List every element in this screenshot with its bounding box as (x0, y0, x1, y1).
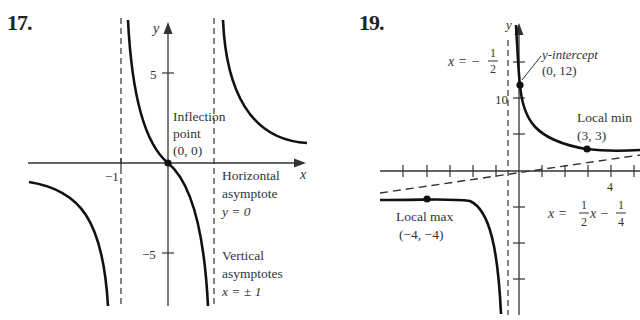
problem-19-panel: 19. (320, 0, 640, 320)
y-axis-label: y (151, 21, 160, 36)
local-max-label: Local max (−4, −4) (396, 209, 457, 242)
svg-text:1: 1 (581, 198, 587, 212)
svg-text:1: 1 (490, 46, 496, 60)
svg-text:1: 1 (618, 198, 624, 212)
svg-text:x −: x − (589, 206, 609, 221)
local-max-marker (423, 195, 430, 202)
y-tick-neg5: −5 (142, 247, 156, 262)
y-intercept-label: y-intercept (0, 12) (540, 47, 601, 78)
graph-17: y x 5 −5 −1 Inflection point (0, 0) Hori… (0, 0, 320, 320)
x-tick-4: 4 (607, 180, 613, 194)
y-axis-label: y (504, 17, 512, 32)
vertical-asymptote-label: x = − 1 2 (447, 46, 498, 76)
y-tick-5: 5 (150, 67, 157, 82)
problem-17-panel: 17. y x 5 −5 −1 Inflection point (0, 0) … (0, 0, 320, 320)
y-tick-10: 10 (495, 92, 508, 107)
x-axis-label: x (299, 167, 307, 182)
slant-asymptote (380, 155, 640, 193)
svg-text:4: 4 (618, 215, 624, 229)
horizontal-asymptote-label: Horizontal asymptote y = 0 (220, 168, 283, 219)
svg-text:2: 2 (490, 62, 496, 76)
svg-text:x =: x = (547, 206, 567, 221)
local-min-label: Local min (3, 3) (577, 110, 635, 143)
inflection-point-marker (164, 159, 171, 166)
x-tick-neg1: −1 (105, 169, 119, 184)
graph-19: y 10 4 x = − 1 2 y-intercept (0, 12) Loc… (320, 0, 640, 320)
y-axis-arrow-icon (164, 22, 173, 34)
vertical-asymptotes-label: Vertical asymptotes x = ± 1 (221, 248, 286, 299)
curve-left-branch (29, 182, 108, 306)
y-intercept-leader (522, 56, 541, 80)
y-intercept-marker (516, 81, 523, 88)
inflection-point-label: Inflection point (0, 0) (173, 109, 229, 158)
svg-text:2: 2 (581, 215, 587, 229)
slant-asymptote-label: x = 1 2 x − 1 4 (547, 198, 626, 229)
svg-text:x = −: x = − (447, 54, 480, 69)
local-min-marker (583, 145, 590, 152)
curve-right-branch (223, 20, 307, 143)
